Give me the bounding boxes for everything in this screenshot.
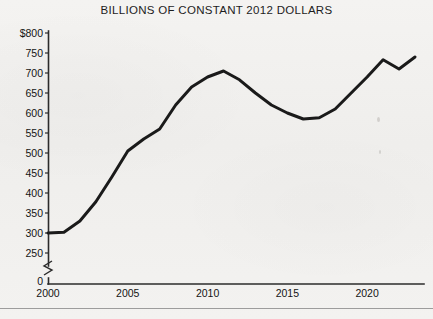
y-axis-tick-label: 450 (25, 167, 43, 179)
x-axis-tick-labels: 20002005201020152020 (36, 287, 379, 299)
y-axis-tick-label: $800 (20, 27, 44, 39)
y-axis-tick-label: 550 (25, 127, 43, 139)
x-axis-tick-label: 2000 (36, 287, 60, 299)
y-axis-zero-label: 0 (37, 275, 43, 287)
x-axis-tick-label: 2015 (276, 287, 300, 299)
y-axis-tick-label: 300 (25, 227, 43, 239)
chart-canvas: $800750700650600550500450400350300250 20… (0, 0, 433, 319)
data-line-series (48, 57, 415, 233)
y-axis-tick-label: 400 (25, 187, 43, 199)
y-axis-tick-label: 750 (25, 47, 43, 59)
page-divider-rule (0, 308, 433, 309)
x-axis-tick-label: 2010 (196, 287, 220, 299)
y-axis-tick-label: 600 (25, 107, 43, 119)
scan-artifact (379, 150, 381, 154)
chart: BILLIONS OF CONSTANT 2012 DOLLARS $80075… (0, 0, 433, 319)
x-axis-tick-label: 2020 (355, 287, 379, 299)
y-axis-tick-label: 500 (25, 147, 43, 159)
x-axis-tick-label: 2005 (116, 287, 140, 299)
scan-artifact (377, 117, 380, 122)
y-axis-tick-label: 650 (25, 87, 43, 99)
y-axis-tick-label: 250 (25, 247, 43, 259)
y-axis-tick-label: 700 (25, 67, 43, 79)
y-axis-tick-labels: $800750700650600550500450400350300250 (20, 27, 44, 259)
y-axis-tick-label: 350 (25, 207, 43, 219)
y-axis-break-icon (44, 261, 52, 275)
